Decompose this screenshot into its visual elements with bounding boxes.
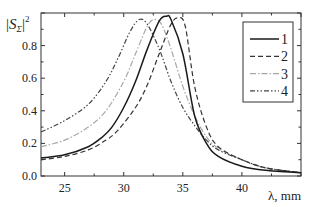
x-tick-label: 35: [177, 181, 189, 195]
y-axis-title: |SΣ|2: [6, 14, 29, 34]
y-tick-label: 0.6: [22, 71, 37, 85]
legend-label: 1: [281, 32, 288, 47]
y-tick-label: 0.4: [22, 104, 37, 118]
y-tick-label: 0.0: [22, 169, 37, 183]
chart: 25303540 0.00.20.40.60.8 |SΣ|2 λ, mm 123…: [0, 0, 317, 207]
y-tick-label: 0.2: [22, 136, 37, 150]
legend-label: 4: [281, 84, 288, 99]
x-tick-label: 25: [59, 181, 71, 195]
x-tick-label: 30: [118, 181, 130, 195]
y-tick-label: 0.8: [22, 39, 37, 53]
x-tick-label: 40: [236, 181, 248, 195]
x-axis-title: λ, mm: [268, 188, 301, 203]
legend: 1234: [243, 22, 293, 102]
y-title-sup: 2: [25, 14, 30, 24]
legend-label: 2: [281, 49, 288, 64]
legend-label: 3: [281, 67, 288, 82]
